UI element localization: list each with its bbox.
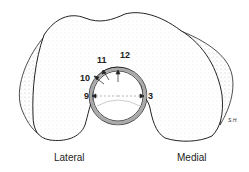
clock-9-label: 9 [84,91,89,101]
clock-11-label: 11 [97,55,107,65]
clock-12-label: 12 [120,50,130,60]
clock-10-label: 10 [80,73,90,83]
clock-3-label: 3 [148,91,153,101]
medial-label: Medial [177,152,206,163]
femur-drawing: 9 10 11 12 3 S.H. [0,0,249,172]
artist-signature: S.H. [228,117,238,123]
lateral-label: Lateral [54,152,85,163]
